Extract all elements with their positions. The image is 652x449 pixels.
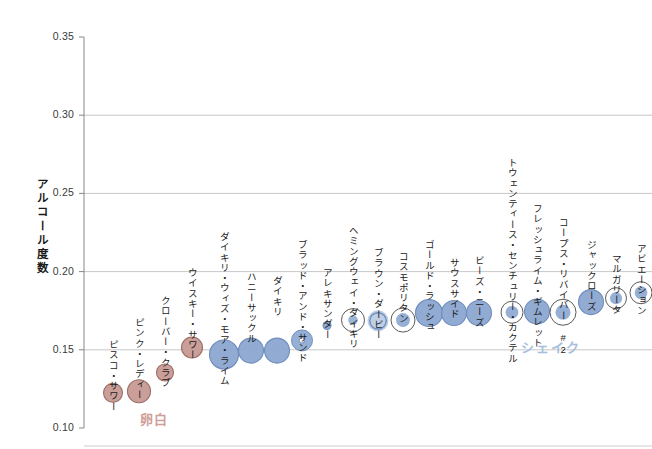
point-label: コスモポリタン bbox=[398, 252, 408, 324]
point-label: クローバー・クラブ bbox=[160, 296, 170, 389]
y-tick-label: 0.35 bbox=[34, 30, 74, 42]
legend-shake: シェイク bbox=[521, 337, 581, 356]
y-tick-label: 0.15 bbox=[34, 343, 74, 355]
point-label: ウイスキー・サワー bbox=[187, 268, 197, 361]
legend-egg-white: 卵白 bbox=[140, 409, 168, 428]
point-label: コープス・リバイバー #2 bbox=[558, 218, 568, 355]
y-tick-label: 0.25 bbox=[34, 186, 74, 198]
point-label: アレキサンダー bbox=[322, 268, 332, 340]
point-label: フレッシュライム・ギムレット bbox=[532, 204, 542, 348]
point-label: アビエーション bbox=[636, 244, 646, 316]
point-label: ピンク・レディー bbox=[134, 318, 144, 400]
point-label: ハニーサックル bbox=[246, 272, 256, 344]
point-label: ブラッド・アンド・サンド bbox=[297, 240, 307, 364]
point-label: ジャックローズ bbox=[586, 240, 596, 312]
point-label: ピスコ・サワー bbox=[108, 340, 118, 412]
point-label: ダイキリ・ウィズ・モア・ライム bbox=[219, 232, 229, 387]
point-label: サウスサイド bbox=[449, 258, 459, 320]
point-label: ブラウン・ダービー bbox=[373, 248, 383, 341]
plot-canvas bbox=[0, 0, 652, 449]
point-label: ビーズ・ニーズ bbox=[474, 256, 484, 328]
point-label: トウェンティース・センチュリー・カクテル bbox=[507, 158, 517, 364]
point-label: マルガリータ bbox=[611, 254, 621, 316]
point-label: ダイキリ bbox=[272, 276, 282, 317]
y-tick-label: 0.20 bbox=[34, 265, 74, 277]
point-label: ヘミングウェイ・ダイキリ bbox=[348, 226, 358, 350]
bubble-chart: アルコール度数 0.350.300.250.200.150.10 ピスコ・サワー… bbox=[0, 0, 652, 449]
data-point bbox=[265, 338, 290, 363]
y-axis-ticks bbox=[79, 37, 84, 428]
point-label: ゴールド・ラッシュ bbox=[424, 240, 434, 333]
y-tick-label: 0.10 bbox=[34, 421, 74, 433]
y-tick-label: 0.30 bbox=[34, 108, 74, 120]
